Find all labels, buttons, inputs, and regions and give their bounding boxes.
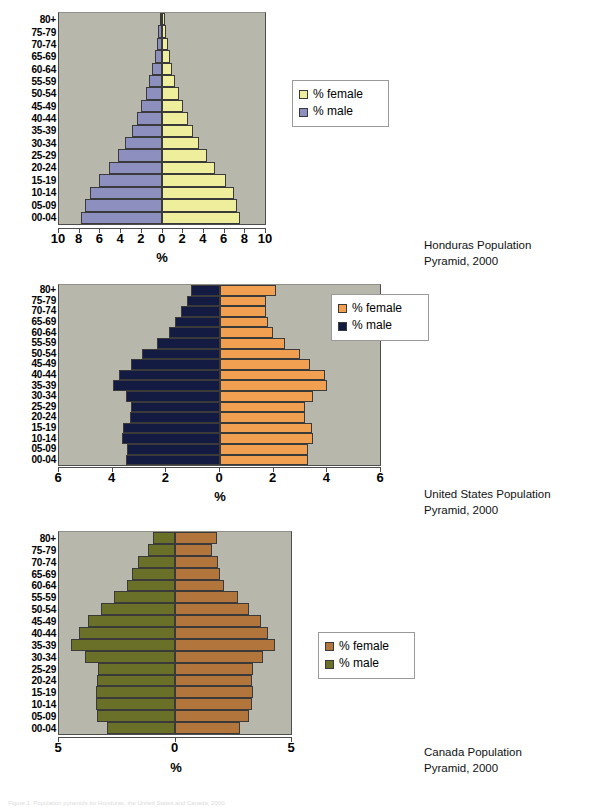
age-label: 05-09 [16,199,56,211]
x-axis-tick-label: 5 [287,740,294,755]
legend-swatch-male-icon [338,322,347,331]
bar-female-25-29 [220,402,306,413]
age-label: 60-64 [16,63,56,75]
legend-label-male: % male [339,655,379,672]
bar-female-30-34 [162,137,199,149]
bar-female-35-39 [175,639,275,651]
bar-male-40-44 [119,370,219,381]
legend-item-male: % male [338,317,421,334]
bar-male-00-04 [107,722,175,734]
bar-male-05-09 [127,444,219,455]
bar-male-05-09 [85,199,162,211]
legend-label-male: % male [352,317,392,334]
bar-female-30-34 [175,651,263,663]
x-axis-tick-label: 4 [199,231,206,246]
legend-swatch-female-icon [338,304,347,313]
bar-male-80+ [153,532,175,544]
bar-female-55-59 [175,591,238,603]
age-label: 20-24 [14,676,56,688]
zero-axis-line [220,285,221,465]
bar-female-40-44 [220,370,326,381]
bar-female-20-24 [220,412,306,423]
bar-female-00-04 [162,212,240,224]
x-axis-tick-label: 2 [137,231,144,246]
x-axis-tick-label: 0 [158,231,165,246]
bar-male-65-69 [155,50,162,62]
age-label: 40-44 [14,370,56,381]
age-label: 30-34 [14,391,56,402]
bar-female-60-64 [220,327,274,338]
x-axis-tick-label: 6 [54,470,61,485]
bar-male-25-29 [118,149,162,161]
bar-female-05-09 [162,199,237,211]
bar-female-80+ [175,532,217,544]
x-axis-tick-label: 2 [179,231,186,246]
x-axis-tick-label: 6 [220,231,227,246]
bar-male-55-59 [157,338,220,349]
bar-female-40-44 [162,112,188,124]
bar-male-25-29 [98,663,175,675]
bar-male-60-64 [127,580,175,592]
age-label: 65-69 [14,317,56,328]
age-label: 75-79 [14,545,56,557]
age-label: 05-09 [14,444,56,455]
bar-male-75-79 [187,296,219,307]
bar-male-45-49 [141,100,162,112]
bar-male-10-14 [90,187,162,199]
legend-swatch-female-icon [299,90,308,99]
legend-swatch-male-icon [325,660,334,669]
legend-item-male: % male [299,103,381,120]
bar-male-30-34 [125,137,162,149]
legend-label-female: % female [339,638,389,655]
x-axis-tick-label: 5 [54,740,61,755]
zero-axis-line [175,532,176,734]
x-axis-tick-label: 0 [215,470,222,485]
caption-united-states: United States Population Pyramid, 2000 [424,487,551,518]
bar-male-00-04 [126,455,220,466]
x-axis-tick-label: 2 [269,470,276,485]
age-label: 30-34 [14,652,56,664]
legend-label-female: % female [313,86,363,103]
age-label: 15-19 [14,423,56,434]
caption-canada: Canada Population Pyramid, 2000 [424,745,522,776]
x-axis-title-canada: % [170,760,182,775]
bar-male-15-19 [99,174,162,186]
x-axis-tick-label: 6 [96,231,103,246]
bar-female-25-29 [162,149,207,161]
legend-label-female: % female [352,300,402,317]
age-label: 65-69 [14,569,56,581]
bar-male-75-79 [148,544,175,556]
age-label: 25-29 [14,664,56,676]
bar-male-55-59 [149,75,162,87]
bar-male-55-59 [114,591,175,603]
age-label: 10-14 [16,187,56,199]
bar-male-10-14 [96,698,175,710]
age-label: 00-04 [14,723,56,735]
age-label: 80+ [14,285,56,296]
age-label: 65-69 [16,51,56,63]
figure-footnote: Figure 1. Population pyramids for Hondur… [8,800,608,808]
bar-female-35-39 [220,380,327,391]
age-label: 35-39 [14,640,56,652]
bar-female-10-14 [220,433,314,444]
bar-male-35-39 [113,380,220,391]
bar-female-75-79 [175,544,212,556]
bar-female-55-59 [220,338,286,349]
caption-honduras: Honduras Population Pyramid, 2000 [424,238,531,269]
bar-female-60-64 [162,63,172,75]
age-label: 10-14 [14,699,56,711]
bar-female-80+ [220,285,276,296]
bar-female-50-54 [220,349,300,360]
legend-swatch-female-icon [325,642,334,651]
age-label: 35-39 [16,125,56,137]
bar-female-50-54 [162,87,179,99]
bar-female-35-39 [162,125,193,137]
bar-male-20-24 [109,162,162,174]
y-axis-age-labels-united-states: 80+75-7970-7465-6960-6455-5950-5445-4940… [14,285,56,465]
bar-female-45-49 [175,615,261,627]
bar-male-05-09 [97,710,175,722]
bar-male-00-04 [81,212,162,224]
bar-female-45-49 [162,100,183,112]
legend-label-male: % male [313,103,353,120]
bar-male-35-39 [71,639,175,651]
